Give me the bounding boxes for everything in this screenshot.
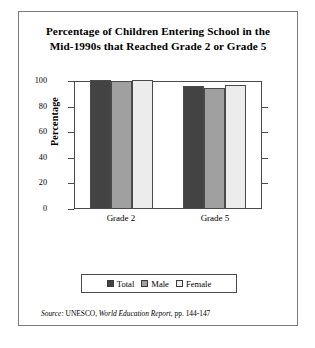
y-axis-tick-label: 20	[7, 179, 47, 187]
x-axis-tick-label: Grade 5	[175, 213, 255, 223]
bar-male-grade-5	[204, 88, 225, 208]
y-axis-tick-mark	[68, 209, 74, 210]
source-publisher: UNESCO,	[66, 309, 97, 318]
bar-female-grade-5	[225, 85, 246, 208]
bar-groups	[75, 82, 261, 208]
legend-item-male: Male	[141, 279, 169, 289]
x-axis-tick-label: Grade 2	[81, 213, 161, 223]
legend-label: Female	[186, 279, 211, 289]
source-note: Source: UNESCO, World Education Report, …	[41, 309, 210, 318]
bar-total-grade-2	[90, 80, 111, 208]
y-axis-label: Percentage	[49, 77, 60, 167]
chart-title-line-1: Percentage of Children Entering School i…	[19, 24, 297, 39]
y-axis-tick-label: 100	[7, 77, 47, 85]
y-axis-tick-label: 40	[7, 154, 47, 162]
y-axis-tick-mark	[262, 158, 268, 159]
legend-swatch-female	[176, 280, 183, 287]
bar-male-grade-2	[111, 81, 132, 208]
y-axis-tick-label: 80	[7, 103, 47, 111]
bar-female-grade-2	[132, 80, 153, 208]
chart-legend: TotalMaleFemale	[81, 274, 237, 293]
plot-area	[74, 81, 262, 209]
bar-group	[183, 82, 246, 208]
y-axis-tick-mark	[262, 183, 268, 184]
y-axis-tick-label: 0	[7, 205, 47, 213]
bar-total-grade-5	[183, 86, 204, 208]
y-axis-tick-mark	[262, 132, 268, 133]
bar-group	[90, 82, 153, 208]
source-report-title: World Education Report	[99, 309, 171, 318]
source-prefix: Source:	[41, 309, 64, 318]
legend-item-total: Total	[107, 279, 135, 289]
y-axis-tick-mark	[262, 107, 268, 108]
y-axis-tick-label: 60	[7, 128, 47, 136]
legend-label: Total	[117, 279, 135, 289]
source-pages: , pp. 144-147	[171, 309, 210, 318]
legend-label: Male	[151, 279, 169, 289]
legend-swatch-male	[141, 280, 148, 287]
figure-frame: Percentage of Children Entering School i…	[18, 11, 298, 326]
legend-item-female: Female	[176, 279, 211, 289]
chart-title: Percentage of Children Entering School i…	[19, 24, 297, 54]
legend-swatch-total	[107, 280, 114, 287]
chart-title-line-2: Mid-1990s that Reached Grade 2 or Grade …	[19, 39, 297, 54]
